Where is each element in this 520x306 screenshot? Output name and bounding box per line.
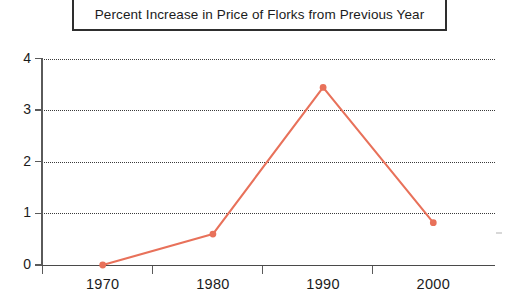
data-series-layer [0,0,520,306]
series-line-percent-increase [103,87,434,265]
scan-artifact-speck [496,232,502,234]
series-marker-group [99,84,436,268]
data-point-1980 [210,231,217,238]
data-point-2000 [430,219,437,226]
data-point-1970 [99,262,106,269]
plot-area: 01234 1970198019902000 [0,0,520,306]
data-point-1990 [320,84,327,91]
chart-figure: Percent Increase in Price of Florks from… [0,0,520,306]
